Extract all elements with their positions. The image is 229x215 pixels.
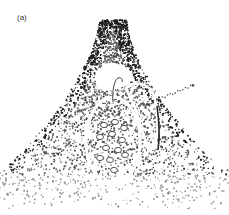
- stipple-dots: [0, 19, 229, 210]
- stippled-illustration: [0, 0, 229, 215]
- pointer-line: [159, 84, 194, 101]
